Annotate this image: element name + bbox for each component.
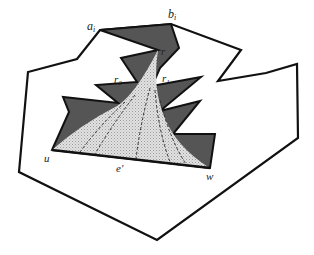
label-u: u [44, 152, 50, 164]
label-a-i: ai [87, 19, 95, 34]
label-b-i: bi [168, 7, 176, 22]
label-r: r [161, 45, 166, 57]
label-e-prime: e' [116, 162, 124, 174]
label-r2: r2 [114, 73, 122, 87]
diagram-canvas: ai bi r r2 r1 u e' w [0, 0, 314, 255]
label-r1: r1 [162, 72, 170, 86]
label-w: w [206, 170, 214, 182]
